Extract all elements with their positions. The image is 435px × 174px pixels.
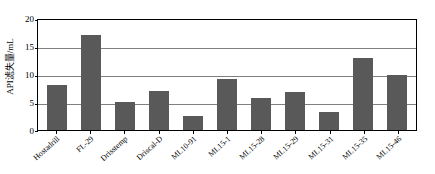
bar-slot: [380, 20, 414, 130]
bar-slot: [142, 20, 176, 130]
y-axis-title-text: API滤失量/mL: [3, 38, 16, 95]
plot-area: [37, 19, 417, 131]
x-axis-tick-labels: HostadrillFL-29DrisstempDriscal-DML10-91…: [37, 131, 417, 174]
x-tickmark: [261, 131, 262, 134]
bar-chart: API滤失量/mL 05101520 HostadrillFL-29Drisst…: [0, 0, 435, 174]
bar: [387, 75, 407, 130]
bar: [47, 85, 67, 130]
bar-slot: [278, 20, 312, 130]
y-axis-tick-labels: 05101520: [18, 0, 36, 132]
bar: [285, 92, 305, 130]
bar: [251, 98, 271, 130]
x-tickmark: [295, 131, 296, 134]
bar-slot: [244, 20, 278, 130]
x-tick-label: Hostadrill: [32, 135, 61, 162]
y-tick-label: 0: [30, 127, 35, 136]
bars-layer: [38, 20, 416, 130]
bar-slot: [108, 20, 142, 130]
x-tickmark: [56, 131, 57, 134]
y-tick-label: 5: [30, 99, 35, 108]
bar: [81, 35, 101, 130]
bar-slot: [210, 20, 244, 130]
x-label-slot: Hostadrill: [39, 131, 73, 174]
x-tickmark: [330, 131, 331, 134]
y-tick-label: 15: [25, 43, 34, 52]
bar: [319, 112, 339, 130]
x-label-slot: ML10-91: [176, 131, 210, 174]
bar-slot: [346, 20, 380, 130]
x-tickmark: [227, 131, 228, 134]
bar-slot: [176, 20, 210, 130]
bar: [115, 102, 135, 130]
y-tick-label: 10: [25, 71, 34, 80]
x-tickmark: [398, 131, 399, 134]
y-tick-label: 20: [25, 15, 34, 24]
x-tickmark: [124, 131, 125, 134]
bar: [353, 58, 373, 130]
bar: [217, 79, 237, 130]
x-tickmark: [364, 131, 365, 134]
x-tickmark: [193, 131, 194, 134]
x-label-slot: ML15-46: [381, 131, 415, 174]
bar: [149, 91, 169, 130]
bar-slot: [312, 20, 346, 130]
bar-slot: [40, 20, 74, 130]
x-tickmark: [90, 131, 91, 134]
bar-slot: [74, 20, 108, 130]
bar: [183, 116, 203, 130]
x-tick-label: ML15-1: [207, 135, 232, 159]
x-tick-label: FL-29: [75, 135, 95, 154]
y-axis-title: API滤失量/mL: [0, 0, 18, 132]
